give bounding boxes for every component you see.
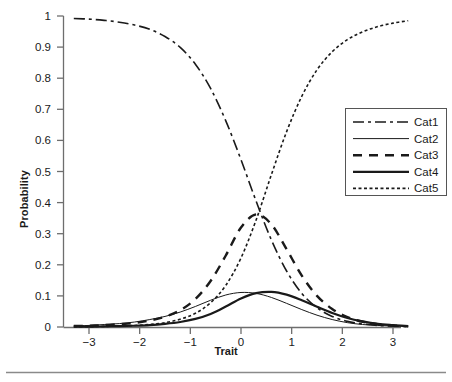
x-tick-label: 3: [390, 336, 396, 348]
chart-figure: 00.10.20.30.40.50.60.70.80.91 −3−2−10123…: [0, 0, 452, 382]
legend-label-cat1: Cat1: [414, 116, 438, 128]
y-tick-label: 0.8: [35, 72, 51, 84]
y-tick-label: 0.3: [35, 228, 51, 240]
x-tick-label: 0: [238, 336, 244, 348]
y-axis-title: Probability: [18, 170, 30, 228]
y-tick-label: 0.2: [35, 259, 51, 271]
legend-label-cat5: Cat5: [414, 182, 438, 194]
y-axis-title-holder: Probability: [2, 120, 20, 230]
x-tick-label: −2: [133, 336, 146, 348]
y-tick-label: 1: [45, 10, 51, 22]
y-tick-label: 0.5: [35, 166, 51, 178]
y-tick-label: 0.1: [35, 290, 51, 302]
probability-trait-line-chart: 00.10.20.30.40.50.60.70.80.91 −3−2−10123…: [0, 0, 452, 382]
y-tick-label: 0.6: [35, 134, 51, 146]
legend-label-cat2: Cat2: [414, 133, 438, 145]
x-axis-title: Trait: [214, 345, 238, 357]
y-tick-label: 0.4: [35, 197, 52, 209]
legend-label-cat3: Cat3: [414, 149, 438, 161]
x-tick-label: 2: [339, 336, 345, 348]
y-tick-label: 0.7: [35, 103, 51, 115]
x-tick-label: −3: [82, 336, 95, 348]
legend-label-cat4: Cat4: [414, 166, 439, 178]
y-tick-label: 0.9: [35, 41, 51, 53]
y-tick-label: 0: [45, 321, 51, 333]
legend: Cat1Cat2Cat3Cat4Cat5: [346, 109, 447, 196]
x-tick-label: −1: [184, 336, 197, 348]
x-tick-label: 1: [288, 336, 294, 348]
